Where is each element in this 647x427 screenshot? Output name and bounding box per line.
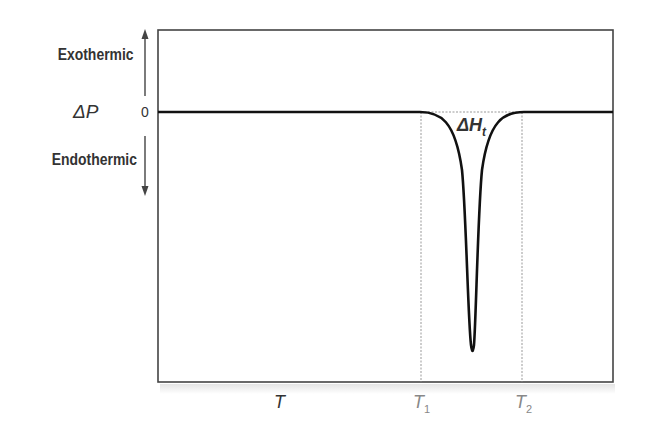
plot-frame: [158, 30, 613, 382]
arrow-down-icon: [142, 186, 149, 196]
arrow-up-icon: [142, 29, 149, 39]
delta-p-label: ΔP: [73, 101, 98, 123]
t1-label: T1: [413, 392, 430, 415]
delta-h-label: ΔHt: [457, 115, 486, 139]
heat-flow-curve: [158, 112, 613, 351]
exothermic-label: Exothermic: [58, 45, 134, 65]
x-axis-label: T: [274, 392, 285, 413]
t2-label: T2: [515, 392, 532, 415]
endothermic-label: Endothermic: [52, 150, 137, 170]
zero-tick-label: 0: [141, 104, 149, 120]
